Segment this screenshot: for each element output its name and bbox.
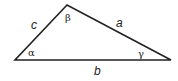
angle-label-beta: β xyxy=(65,12,71,23)
triangle-shape xyxy=(15,5,171,60)
angle-label-gamma: γ xyxy=(138,48,144,59)
side-label-c: c xyxy=(31,18,37,32)
triangle-diagram: a b c α β γ xyxy=(0,0,178,81)
angle-label-alpha: α xyxy=(28,47,35,58)
side-label-a: a xyxy=(116,16,123,30)
side-label-b: b xyxy=(94,64,101,78)
